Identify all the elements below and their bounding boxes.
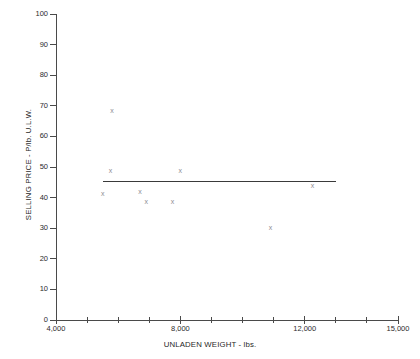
scatter-chart: 0102030405060708090100 4,0008,00012,0001… (0, 0, 420, 359)
data-point: x (171, 198, 175, 205)
y-tick-label: 100 (22, 10, 48, 18)
x-axis-title: UNLADEN WEIGHT - lbs. (0, 340, 420, 349)
y-axis-title: SELLING PRICE - P/lb. U.L.W. (24, 90, 33, 240)
x-tick-label: 4,000 (26, 324, 86, 333)
y-tick-label: 80 (22, 71, 48, 79)
data-point: x (144, 198, 148, 205)
data-point: x (109, 167, 113, 174)
trend-line (103, 181, 336, 183)
x-tick-label: 12,000 (275, 324, 335, 333)
x-tick-label: 8,000 (150, 324, 210, 333)
y-tick-label: 0 (22, 316, 48, 324)
data-point: x (269, 224, 273, 231)
y-tick-label: 10 (22, 285, 48, 293)
x-tick-label: 15,000 (368, 324, 420, 333)
y-tick-label: 20 (22, 255, 48, 263)
data-point: x (311, 182, 315, 189)
y-tick-label: 90 (22, 41, 48, 49)
data-point: x (110, 107, 114, 114)
x-axis-line (56, 320, 398, 321)
plot-area: xxxxxxxxx (56, 14, 398, 320)
data-point: x (179, 167, 183, 174)
data-point: x (138, 188, 142, 195)
data-point: x (101, 190, 105, 197)
